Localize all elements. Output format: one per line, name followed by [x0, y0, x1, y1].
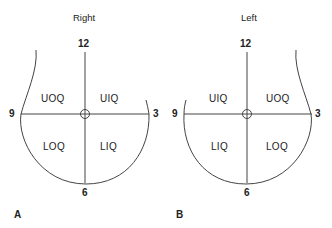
quadrant-upper-outer: UOQ — [266, 94, 290, 104]
quadrant-lower-outer: LOQ — [266, 142, 288, 152]
quadrant-upper-outer: UOQ — [41, 94, 65, 104]
quadrant-upper-inner: UIQ — [209, 94, 228, 104]
clock-3-label: 3 — [153, 109, 159, 119]
quadrant-lower-inner: LIQ — [100, 142, 117, 152]
panel-label: A — [14, 210, 21, 220]
clock-12-label: 12 — [78, 39, 89, 49]
quadrant-lower-inner: LIQ — [211, 142, 228, 152]
clock-9-label: 9 — [9, 109, 15, 119]
quadrant-lower-outer: LOQ — [43, 142, 65, 152]
panel-label: B — [176, 210, 183, 220]
clock-12-label: 12 — [240, 39, 251, 49]
clock-3-label: 3 — [315, 109, 321, 119]
clock-6-label: 6 — [244, 188, 250, 198]
left-breast-outline — [184, 50, 312, 184]
right-breast-outline — [21, 50, 149, 184]
clock-6-label: 6 — [82, 188, 88, 198]
panel-title: Left — [241, 13, 257, 23]
clock-9-label: 9 — [172, 109, 178, 119]
breast-quadrant-diagram — [0, 0, 332, 228]
quadrant-upper-inner: UIQ — [100, 94, 119, 104]
panel-title: Right — [73, 13, 95, 23]
